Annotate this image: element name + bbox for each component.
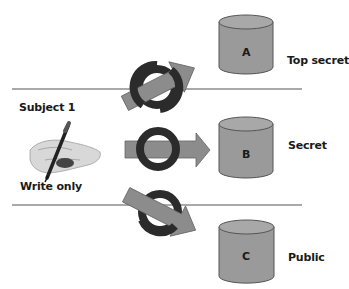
object-c-label: C: [242, 250, 250, 263]
blocked-arrow-down-icon: [118, 180, 203, 246]
blocked-arrow-up-icon: [117, 53, 202, 119]
blocked-arrow-right-icon: [125, 131, 210, 167]
level-secret-label: Secret: [288, 139, 327, 152]
cylinder-a-icon: [219, 15, 273, 74]
object-b-label: B: [242, 148, 250, 161]
subject-label: Subject 1: [19, 101, 75, 114]
hand-writing-icon: [30, 123, 100, 182]
subject-mode-label: Write only: [20, 180, 82, 193]
level-public-label: Public: [288, 251, 325, 264]
level-top-secret-label: Top secret: [287, 54, 349, 67]
object-a-label: A: [242, 46, 250, 59]
